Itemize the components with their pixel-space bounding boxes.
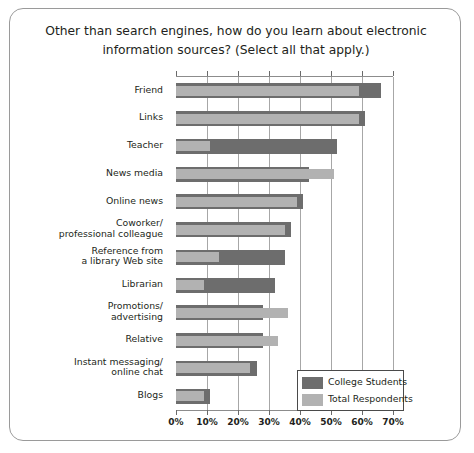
axis-tick — [331, 71, 332, 76]
y-axis-label: Promotions/advertising — [11, 301, 163, 322]
bar-total-respondents — [176, 141, 210, 151]
axis-tick — [238, 410, 239, 415]
chart-title-line-2: information sources? (Select all that ap… — [32, 41, 440, 60]
chart-title-line-1: Other than search engines, how do you le… — [32, 22, 440, 41]
x-tick-label: 70% — [382, 417, 404, 427]
gridline — [269, 77, 270, 410]
axis-line-top — [176, 76, 393, 77]
bar-total-respondents — [176, 86, 359, 96]
gridline — [393, 77, 394, 410]
y-axis-label: Blogs — [11, 390, 163, 401]
y-axis-label-line: Links — [11, 112, 163, 123]
bar-total-respondents — [176, 308, 288, 318]
y-axis-label: Links — [11, 112, 163, 123]
axis-tick — [207, 71, 208, 76]
chart-title: Other than search engines, how do you le… — [32, 22, 440, 60]
y-axis-label: Instant messaging/online chat — [11, 357, 163, 378]
y-axis-label-line: professional colleague — [11, 229, 163, 240]
y-axis-label-line: Friend — [11, 85, 163, 96]
legend-label: Total Respondents — [328, 393, 413, 404]
legend-label: College Students — [328, 376, 407, 387]
bar-total-respondents — [176, 336, 278, 346]
y-axis-label: Relative — [11, 334, 163, 345]
bar-total-respondents — [176, 363, 250, 373]
bar-total-respondents — [176, 197, 297, 207]
x-tick-label: 50% — [320, 417, 342, 427]
y-axis-label-line: Blogs — [11, 390, 163, 401]
plot-area: 0%10%20%30%40%50%60%70% — [176, 77, 393, 410]
chart-frame: Other than search engines, how do you le… — [9, 8, 461, 441]
y-axis-label: Reference froma library Web site — [11, 246, 163, 267]
bar-total-respondents — [176, 280, 204, 290]
bar-total-respondents — [176, 169, 334, 179]
y-axis-label-line: Online news — [11, 196, 163, 207]
axis-tick — [269, 71, 270, 76]
legend-swatch — [302, 394, 323, 406]
y-axis-label: Friend — [11, 85, 163, 96]
y-axis-label-line: online chat — [11, 367, 163, 378]
axis-tick — [176, 410, 177, 415]
y-axis-label: Coworker/professional colleague — [11, 218, 163, 239]
axis-tick — [362, 71, 363, 76]
x-tick-label: 10% — [196, 417, 218, 427]
gridline — [300, 77, 301, 410]
chart-legend: College StudentsTotal Respondents — [297, 370, 404, 411]
bar-total-respondents — [176, 225, 285, 235]
axis-tick — [176, 71, 177, 76]
y-axis-label: News media — [11, 168, 163, 179]
y-axis-label: Librarian — [11, 279, 163, 290]
bar-total-respondents — [176, 252, 219, 262]
x-tick-label: 30% — [258, 417, 280, 427]
x-tick-label: 0% — [168, 417, 183, 427]
bar-total-respondents — [176, 114, 359, 124]
x-tick-label: 60% — [351, 417, 373, 427]
y-axis-label-line: News media — [11, 168, 163, 179]
axis-tick — [393, 71, 394, 76]
y-axis-label-line: Relative — [11, 334, 163, 345]
x-tick-label: 20% — [227, 417, 249, 427]
gridline — [362, 77, 363, 410]
axis-tick — [300, 71, 301, 76]
y-axis-labels: FriendLinksTeacherNews mediaOnline newsC… — [10, 77, 170, 410]
axis-tick — [238, 71, 239, 76]
axis-tick — [207, 410, 208, 415]
y-axis-label-line: Teacher — [11, 140, 163, 151]
y-axis-label-line: Librarian — [11, 279, 163, 290]
y-axis-label-line: advertising — [11, 312, 163, 323]
bar-total-respondents — [176, 391, 204, 401]
legend-swatch — [302, 377, 323, 389]
y-axis-label: Online news — [11, 196, 163, 207]
y-axis-label-line: a library Web site — [11, 256, 163, 267]
axis-tick — [269, 410, 270, 415]
y-axis-label: Teacher — [11, 140, 163, 151]
x-tick-label: 40% — [289, 417, 311, 427]
gridline — [331, 77, 332, 410]
